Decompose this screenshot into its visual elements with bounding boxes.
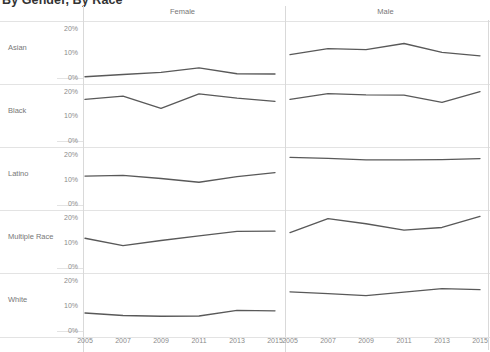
line-multiple-race-female	[85, 231, 275, 246]
line-asian-female	[85, 68, 275, 77]
line-latino-male	[290, 157, 480, 159]
line-white-female	[85, 310, 275, 316]
line-latino-female	[85, 173, 275, 183]
line-white-male	[290, 289, 480, 296]
visualization-container: By Gender, By Race Female Male AsianBlac…	[0, 0, 490, 352]
line-black-female	[85, 94, 275, 109]
line-multiple-race-male	[290, 216, 480, 232]
line-asian-male	[290, 44, 480, 56]
line-series-layer	[0, 0, 490, 352]
line-black-male	[290, 92, 480, 103]
